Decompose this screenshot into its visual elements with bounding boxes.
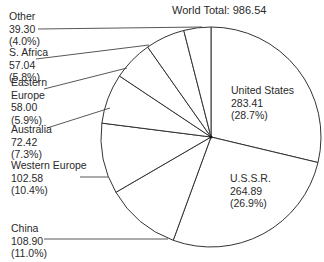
label-china-value: 108.90 [11, 235, 47, 248]
label-australia: Australia 72.42 (7.3%) [11, 123, 52, 161]
leader-line-australia [47, 108, 110, 128]
label-eastern-europe-name1: Eastern [11, 76, 47, 89]
leader-line-s-africa [36, 45, 149, 59]
label-western-europe-name: Western Europe [11, 159, 87, 172]
label-other-value: 39.30 [9, 23, 40, 36]
label-s-africa-name: S. Africa [9, 46, 48, 59]
label-eastern-europe-value: 58.00 [11, 101, 47, 114]
label-china-name: China [11, 222, 47, 235]
label-other-name: Other [9, 10, 40, 23]
label-united-states-value: 283.41 [231, 97, 294, 110]
label-other: Other 39.30 (4.0%) [9, 10, 40, 48]
label-ussr-value: 264.89 [230, 185, 271, 198]
chart-title: World Total: 986.54 [172, 4, 266, 16]
pie-center-dot [209, 135, 212, 138]
label-australia-value: 72.42 [11, 136, 52, 149]
label-western-europe: Western Europe 102.58 (10.4%) [11, 159, 87, 197]
label-united-states: United States 283.41 (28.7%) [231, 84, 294, 122]
label-china-pct: (11.0%) [11, 247, 47, 260]
label-ussr-name: U.S.S.R. [230, 172, 271, 185]
label-ussr-pct: (26.9%) [230, 197, 271, 210]
label-western-europe-value: 102.58 [11, 172, 87, 185]
label-s-africa-value: 57.04 [9, 59, 48, 72]
label-china: China 108.90 (11.0%) [11, 222, 47, 260]
label-australia-name: Australia [11, 123, 52, 136]
label-ussr: U.S.S.R. 264.89 (26.9%) [230, 172, 271, 210]
label-united-states-pct: (28.7%) [231, 109, 294, 122]
label-eastern-europe-name2: Europe [11, 89, 47, 102]
leader-line-other [38, 27, 202, 29]
label-eastern-europe: Eastern Europe 58.00 (5.9%) [11, 76, 47, 126]
label-united-states-name: United States [231, 84, 294, 97]
pie-slices [101, 27, 321, 247]
label-western-europe-pct: (10.4%) [11, 184, 87, 197]
